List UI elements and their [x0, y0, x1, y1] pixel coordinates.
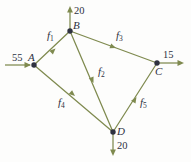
outflow-D-arrowhead	[110, 150, 116, 157]
edge-f3-arrowhead	[109, 43, 116, 50]
inflow-A-arrowhead	[25, 62, 32, 68]
edge-f1-line	[34, 31, 70, 65]
node-C-dot	[154, 60, 159, 65]
diagram-canvas	[0, 0, 191, 162]
network-flow-diagram: A B C D f1 f2 f3 f4 f5 55 20 15 20	[0, 0, 191, 162]
node-A-dot	[31, 62, 36, 67]
node-B-dot	[67, 28, 72, 33]
outflow-B-arrowhead	[67, 6, 73, 13]
edge-f4-line	[34, 65, 113, 132]
edge-f1-arrowhead	[49, 47, 57, 55]
outflow-C-arrowhead	[178, 60, 185, 66]
edge-f4-arrowhead	[69, 90, 77, 98]
edge-f5-line	[113, 63, 157, 132]
node-D-dot	[110, 129, 115, 134]
edge-f2-line	[70, 31, 113, 132]
